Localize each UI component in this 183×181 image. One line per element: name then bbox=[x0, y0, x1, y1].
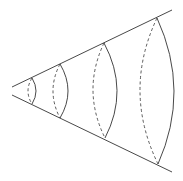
section-4-back-arc bbox=[140, 18, 158, 164]
section-3-back-arc bbox=[93, 43, 105, 138]
section-1-front-arc bbox=[32, 78, 36, 104]
section-1-back-arc bbox=[28, 78, 32, 104]
section-2-front-arc bbox=[60, 64, 68, 118]
cone-top-edge bbox=[12, 10, 172, 87]
cone-bottom-edge bbox=[12, 95, 172, 172]
cone-diagram bbox=[0, 0, 183, 181]
section-4-front-arc bbox=[157, 18, 174, 164]
section-3-front-arc bbox=[104, 43, 117, 138]
section-2-back-arc bbox=[53, 64, 60, 118]
cross-sections bbox=[28, 18, 174, 164]
